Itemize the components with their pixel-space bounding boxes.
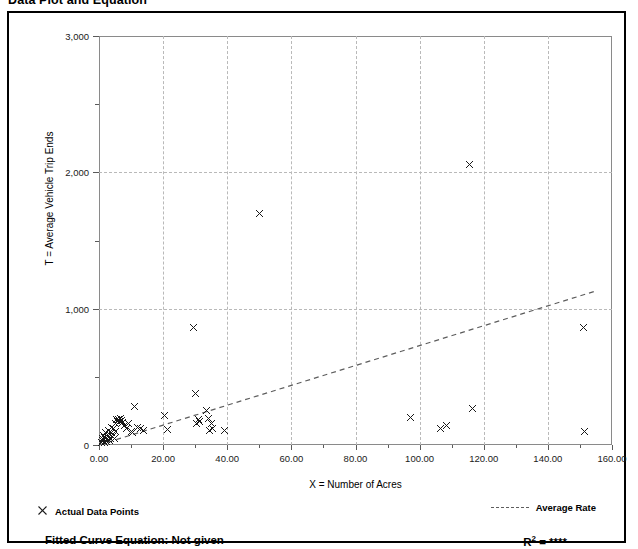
figure-footer: Fitted Curve Equation: Not given R2 = **… [9,534,624,549]
x-axis-tick-label: 80.00 [344,453,368,464]
x-axis-tick [291,445,292,450]
x-axis-tick [356,445,357,450]
x-axis-tick [484,445,485,450]
y-axis-tick [93,445,99,446]
x-axis-tick-label: 60.00 [279,453,303,464]
x-axis-tick-label: 140.00 [533,453,562,464]
legend-item-actual-data-points: Actual Data Points [37,502,139,520]
y-axis-tick-label: 1,000 [65,303,89,314]
legend-label-average-rate: Average Rate [536,502,596,513]
page-title: Data Plot and Equation [8,0,147,7]
fitted-curve-equation: Fitted Curve Equation: Not given [45,534,224,546]
x-axis-tick-label: 0.00 [90,453,109,464]
x-axis-tick-label: 40.00 [215,453,239,464]
x-axis-minor-tick [452,445,453,448]
x-axis-tick [99,445,100,450]
x-axis-minor-tick [323,445,324,448]
x-axis-minor-tick [516,445,517,448]
x-axis-minor-tick [388,445,389,448]
plot-area: 0.0020.0040.0060.0080.00100.00120.00140.… [99,36,612,445]
x-marker-icon [37,502,48,520]
y-axis-tick-label: 0 [84,440,89,451]
average-rate-line [99,291,596,445]
x-axis-title: X = Number of Acres [99,479,612,490]
dashed-line-icon [491,507,529,508]
x-axis-tick [548,445,549,450]
average-rate-trendline [99,36,612,445]
x-axis-tick [227,445,228,450]
x-axis-minor-tick [580,445,581,448]
legend-label-actual-data-points: Actual Data Points [55,506,139,517]
legend-item-average-rate: Average Rate [491,502,596,513]
x-axis-minor-tick [131,445,132,448]
x-axis-tick-label: 20.00 [151,453,175,464]
x-axis-tick-label: 100.00 [405,453,434,464]
figure-card: T = Average Vehicle Trip Ends X = Number… [7,11,626,543]
x-axis-tick-label: 160.00 [597,453,626,464]
r-squared-exponent: 2 [532,534,536,543]
y-axis-title: T = Average Vehicle Trip Ends [44,0,55,399]
x-axis-tick [420,445,421,450]
x-axis-minor-tick [195,445,196,448]
x-axis-minor-tick [259,445,260,448]
x-axis-tick-label: 120.00 [469,453,498,464]
y-axis-tick-label: 2,000 [65,167,89,178]
r-squared-annotation: R2 = **** [523,534,567,548]
legend: Actual Data Points Average Rate [9,502,624,520]
r-squared-value: = **** [539,536,567,548]
x-axis-tick [612,445,613,450]
r-squared-symbol: R [523,536,531,548]
y-axis-tick-label: 3,000 [65,31,89,42]
x-axis-tick [163,445,164,450]
